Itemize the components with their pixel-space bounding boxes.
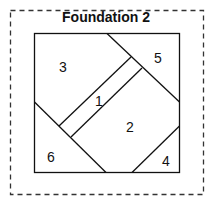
strip-line-upper — [59, 57, 131, 126]
seam-line-4 — [132, 126, 180, 173]
piece-label-2: 2 — [126, 119, 134, 135]
piece-label-6: 6 — [47, 149, 55, 165]
foundation-diagram: 3 5 1 2 6 4 — [0, 0, 212, 206]
piece-label-5: 5 — [154, 50, 162, 66]
piece-label-3: 3 — [59, 59, 67, 75]
piece-label-1: 1 — [95, 93, 103, 109]
piece-label-4: 4 — [162, 153, 170, 169]
